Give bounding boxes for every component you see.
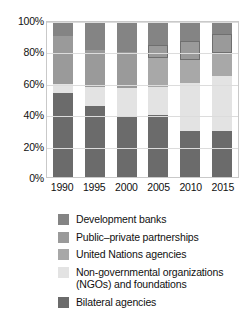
x-axis-tick-label: 2000 <box>111 181 141 199</box>
bar-segment[interactable] <box>212 22 232 34</box>
bar-segment[interactable] <box>85 87 105 106</box>
legend-swatch-icon <box>58 232 69 243</box>
legend-item-label: Bilateral agencies <box>76 296 156 309</box>
legend-item[interactable]: Non-governmental organizations (NGOs) an… <box>58 266 247 291</box>
legend-item[interactable]: Bilateral agencies <box>58 296 247 309</box>
x-axis-tick-label: 1990 <box>47 181 77 199</box>
legend-item-label: United Nations agencies <box>76 248 186 261</box>
bar-segment[interactable] <box>85 22 105 50</box>
bar-1995[interactable] <box>85 22 105 177</box>
gridline <box>47 116 238 117</box>
legend-swatch-icon <box>58 214 69 225</box>
legend-item-label: Development banks <box>76 213 166 226</box>
y-axis-tick-label: 0% <box>29 172 44 184</box>
bar-segment[interactable] <box>180 41 200 60</box>
gridline <box>47 148 238 149</box>
bar-segment[interactable] <box>117 52 137 88</box>
bar-segment[interactable] <box>53 22 73 36</box>
legend-swatch-icon <box>58 267 69 278</box>
plot-wrapper: 0%20%40%60%80%100% 199019952000200520102… <box>0 0 247 212</box>
y-axis-tick-label: 100% <box>18 15 44 27</box>
bar-segment[interactable] <box>212 34 232 53</box>
bar-2000[interactable] <box>117 22 137 177</box>
bar-segment[interactable] <box>85 50 105 87</box>
x-axis-tick-label: 1995 <box>79 181 109 199</box>
legend-swatch-icon <box>58 297 69 308</box>
bar-segment[interactable] <box>180 60 200 83</box>
bar-1990[interactable] <box>53 22 73 177</box>
bar-segment[interactable] <box>212 131 232 178</box>
legend-item[interactable]: United Nations agencies <box>58 248 247 261</box>
bar-segment[interactable] <box>148 115 168 177</box>
bar-segment[interactable] <box>148 87 168 115</box>
x-axis-tick-label: 2010 <box>176 181 206 199</box>
x-axis-tick-label: 2015 <box>208 181 238 199</box>
bar-segment[interactable] <box>53 93 73 177</box>
stacked-bar-chart-figure: 0%20%40%60%80%100% 199019952000200520102… <box>0 0 247 334</box>
x-axis: 199019952000200520102015 <box>46 181 239 199</box>
bar-segment[interactable] <box>117 22 137 52</box>
bar-segment[interactable] <box>148 22 168 45</box>
bar-segment[interactable] <box>148 45 168 57</box>
bar-2005[interactable] <box>148 22 168 177</box>
bar-group <box>47 22 238 177</box>
bar-segment[interactable] <box>117 88 137 117</box>
bar-segment[interactable] <box>180 22 200 41</box>
bar-segment[interactable] <box>180 83 200 131</box>
legend-item-label: Non-governmental organizations (NGOs) an… <box>76 266 223 291</box>
bar-segment[interactable] <box>212 53 232 76</box>
gridline <box>47 22 238 23</box>
bar-segment[interactable] <box>148 58 168 87</box>
plot-area <box>46 21 239 178</box>
y-axis-tick-label: 20% <box>24 141 44 153</box>
legend-item[interactable]: Development banks <box>58 213 247 226</box>
y-axis-tick-label: 80% <box>24 46 44 58</box>
bar-segment[interactable] <box>53 36 73 84</box>
legend-swatch-icon <box>58 249 69 260</box>
gridline <box>47 85 238 86</box>
y-axis-tick-label: 60% <box>24 78 44 90</box>
bar-2010[interactable] <box>180 22 200 177</box>
x-axis-tick-label: 2005 <box>144 181 174 199</box>
legend-item-label: Public–private partnerships <box>76 231 199 244</box>
gridline <box>47 53 238 54</box>
legend-item[interactable]: Public–private partnerships <box>58 231 247 244</box>
y-axis-tick-label: 40% <box>24 109 44 121</box>
bar-segment[interactable] <box>180 131 200 177</box>
y-axis: 0%20%40%60%80%100% <box>6 14 44 178</box>
chart-legend: Development banksPublic–private partners… <box>0 213 247 334</box>
bar-2015[interactable] <box>212 22 232 177</box>
